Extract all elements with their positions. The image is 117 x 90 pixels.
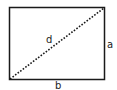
height-label: a (107, 39, 113, 50)
rectangle-diagram: d a b (0, 0, 117, 90)
diagonal-label: d (46, 34, 52, 45)
diagonal-line (10, 8, 104, 79)
width-label: b (55, 80, 61, 90)
